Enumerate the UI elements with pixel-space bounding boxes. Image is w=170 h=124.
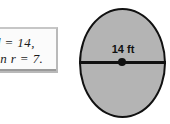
figure-root: d = 14, en r = 7. 14 ft bbox=[0, 0, 170, 124]
note-box-line-1: d = 14, bbox=[0, 35, 35, 51]
clipped-note-box: d = 14, en r = 7. bbox=[0, 27, 58, 73]
circle-center-dot bbox=[118, 58, 126, 66]
diameter-label: 14 ft bbox=[101, 43, 145, 55]
note-box-line-2: en r = 7. bbox=[0, 51, 43, 67]
